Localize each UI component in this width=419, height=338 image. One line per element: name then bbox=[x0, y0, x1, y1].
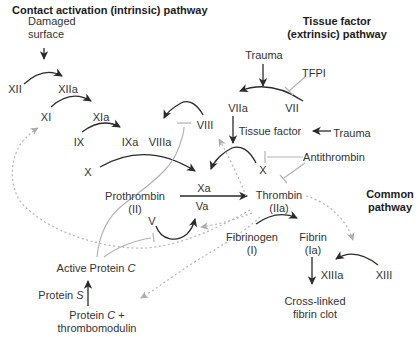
label-crosslinked-fibrin-clot: Cross-linked fibrin clot bbox=[284, 295, 345, 320]
label-factor-viiia: VIIIa bbox=[149, 136, 172, 149]
coagulation-cascade-diagram: Contact activation (intrinsic) pathway T… bbox=[0, 0, 419, 338]
label-factor-xi: XI bbox=[41, 111, 51, 124]
label-tfpi: TFPI bbox=[302, 67, 326, 80]
label-factor-xii: XII bbox=[8, 83, 21, 96]
label-factor-viia: VIIa bbox=[228, 102, 248, 115]
label-fibrin: Fibrin (Ia) bbox=[299, 231, 327, 256]
inhibit-antithrombin-to-thrombin bbox=[284, 163, 305, 178]
label-damaged-surface: Damaged surface bbox=[28, 15, 76, 40]
arrow-xiii-to-xiiia bbox=[336, 254, 378, 265]
label-protein-s: Protein S bbox=[38, 289, 83, 302]
extrinsic-pathway-title: Tissue factor (extrinsic) pathway bbox=[287, 15, 387, 40]
feedback-thrombin-to-v bbox=[201, 213, 252, 227]
arrow-xi-to-xia bbox=[51, 96, 91, 107]
label-prothrombin: Prothrombin (II) bbox=[105, 190, 165, 215]
label-trauma-top: Trauma bbox=[245, 49, 283, 62]
feedback-thrombin-to-protein-c bbox=[141, 217, 260, 298]
label-factor-ixa: IXa bbox=[122, 136, 139, 149]
label-tissue-factor: Tissue factor bbox=[239, 125, 302, 138]
label-factor-xiiia: XIIIa bbox=[321, 269, 344, 282]
label-factor-xiii: XIII bbox=[376, 269, 393, 282]
arrow-xii-to-xiia bbox=[24, 72, 62, 84]
label-factor-vii: VII bbox=[285, 102, 298, 115]
arrow-ix-to-ixa bbox=[82, 123, 120, 132]
arrows-layer bbox=[0, 0, 419, 338]
label-factor-ix: IX bbox=[74, 136, 84, 149]
label-thrombin: Thrombin (IIa) bbox=[256, 189, 302, 214]
inhibit-apc-va-tbar bbox=[153, 233, 154, 242]
arrow-x-to-xa-intrinsic bbox=[100, 155, 195, 171]
label-factor-x-extrinsic: X bbox=[259, 164, 266, 177]
arrow-x-to-xa-extrinsic bbox=[211, 147, 256, 169]
label-factor-x-intrinsic: X bbox=[84, 166, 91, 179]
label-factor-xia: XIa bbox=[93, 111, 110, 124]
label-factor-xiia: XIIa bbox=[58, 83, 78, 96]
label-active-protein-c: Active Protein C bbox=[57, 262, 136, 275]
label-antithrombin: Antithrombin bbox=[303, 151, 365, 164]
arrow-viii-to-viiia bbox=[164, 102, 203, 118]
label-fibrinogen: Fibrinogen (I) bbox=[226, 231, 278, 256]
arrow-v-to-va bbox=[156, 219, 195, 239]
arrow-vii-to-viia bbox=[240, 87, 303, 101]
label-factor-va: Va bbox=[196, 200, 209, 213]
common-pathway-title: Common pathway bbox=[366, 188, 414, 213]
label-factor-xa: Xa bbox=[197, 182, 210, 195]
label-trauma-right: Trauma bbox=[333, 127, 371, 140]
arrow-fibrinogen-to-fibrin bbox=[256, 215, 297, 224]
label-factor-viii: VIII bbox=[197, 119, 214, 132]
label-protein-c-thrombomodulin: Protein C + thrombomodulin bbox=[58, 309, 137, 334]
label-factor-v: V bbox=[148, 215, 155, 228]
